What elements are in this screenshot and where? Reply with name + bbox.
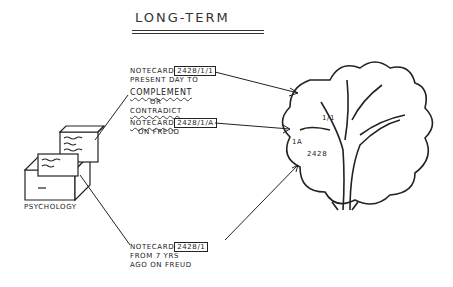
- note-1-connector: OR: [130, 98, 216, 107]
- note-1-line: PRESENT DAY TO: [130, 76, 216, 85]
- tree-label-trunk: 2428: [307, 150, 327, 159]
- note-3-id: 2428/1: [174, 242, 208, 252]
- tree-label-branch-a: 1A: [292, 138, 302, 147]
- card-box-icon: [25, 126, 104, 200]
- note-1-prefix: NOTECARD: [130, 67, 174, 75]
- note-2: NOTECARD2428/1/A ON FREUD: [130, 119, 217, 137]
- tree-icon: [283, 62, 433, 210]
- note-3-prefix: NOTECARD: [130, 243, 174, 251]
- note-3: NOTECARD2428/1 FROM 7 YRS AGO ON FREUD: [130, 243, 208, 270]
- note-2-id: 2428/1/A: [174, 118, 217, 128]
- note-3-line-2: AGO ON FREUD: [130, 261, 208, 270]
- note-1-id: 2428/1/1: [174, 66, 216, 76]
- note-1-emphasis: COMPLEMENT: [130, 88, 192, 97]
- note-1: NOTECARD2428/1/1 PRESENT DAY TO COMPLEME…: [130, 67, 216, 116]
- note-1-alt: CONTRADICT: [130, 107, 182, 115]
- note-3-line-1: FROM 7 YRS: [130, 252, 208, 261]
- note-2-prefix: NOTECARD: [130, 119, 174, 127]
- tree-label-branch-1: 1/1: [322, 114, 335, 123]
- note-2-line: ON FREUD: [130, 128, 217, 137]
- diagram-drawing: [0, 0, 453, 287]
- archive-label: PSYCHOLOGY: [24, 203, 77, 212]
